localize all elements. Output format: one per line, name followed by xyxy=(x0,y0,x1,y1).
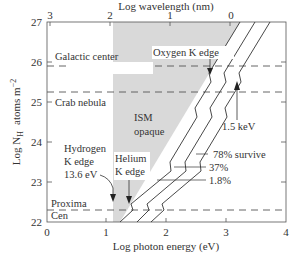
x-axis-title: Log photon energy (eV) xyxy=(113,240,220,253)
hydrogen-label-3: 13.6 eV xyxy=(64,169,98,180)
galactic-center-label: Galactic center xyxy=(55,51,119,62)
right-ticks xyxy=(281,62,286,182)
svg-text:0: 0 xyxy=(228,9,234,21)
svg-text:23: 23 xyxy=(31,176,43,188)
ism-label-1: ISM xyxy=(134,112,153,123)
svg-text:2: 2 xyxy=(163,226,169,238)
survive-78-label: 78% survive xyxy=(213,149,266,160)
hydrogen-label-1: Hydrogen xyxy=(64,143,107,154)
svg-text:3: 3 xyxy=(223,226,229,238)
svg-text:4: 4 xyxy=(283,226,289,238)
y-axis-title: Log NHatoms m−2 xyxy=(9,79,25,165)
svg-text:22: 22 xyxy=(31,216,42,228)
svg-text:26: 26 xyxy=(31,56,43,68)
svg-text:24: 24 xyxy=(31,136,43,148)
kev-label: 1.5 keV xyxy=(222,121,256,132)
hydrogen-label-2: K edge xyxy=(64,156,94,167)
svg-text:1: 1 xyxy=(167,9,173,21)
helium-label-2: K edge xyxy=(115,166,145,177)
survive-37-label: 37% xyxy=(209,162,229,173)
ism-label-2: opaque xyxy=(134,126,165,137)
survive-18-label: 1.8% xyxy=(209,175,231,186)
svg-text:Log NHatoms m−2: Log NHatoms m−2 xyxy=(9,79,25,165)
helium-label-1: Helium xyxy=(115,153,147,164)
svg-text:25: 25 xyxy=(31,96,43,108)
svg-text:2: 2 xyxy=(107,9,113,21)
oxygen-label: Oxygen K edge xyxy=(153,47,219,58)
proxima-label: Proxima xyxy=(51,198,87,209)
left-tick-labels: 27 26 25 24 23 22 xyxy=(31,16,43,228)
x2-axis-title: Log wavelength (nm) xyxy=(118,0,214,13)
svg-text:0: 0 xyxy=(44,226,50,238)
svg-text:1: 1 xyxy=(103,226,109,238)
left-ticks xyxy=(47,62,52,182)
svg-text:3: 3 xyxy=(47,9,53,21)
cen-label: Cen xyxy=(51,210,69,221)
chart: Log wavelength (nm) Log photon energy (e… xyxy=(0,0,302,262)
kev-arrow xyxy=(234,81,240,120)
crab-nebula-label: Crab nebula xyxy=(55,97,106,108)
svg-text:27: 27 xyxy=(31,16,43,28)
bottom-tick-labels: 0 1 2 3 4 xyxy=(44,226,289,238)
